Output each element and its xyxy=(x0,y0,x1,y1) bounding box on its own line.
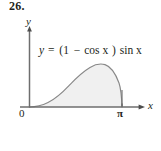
equation-lhs: y xyxy=(39,44,44,56)
shaded-region xyxy=(30,64,123,107)
x-axis-label: x xyxy=(148,100,153,111)
equation-cos-term: cos x xyxy=(84,44,108,56)
origin-label: 0 xyxy=(19,108,25,119)
equation-equals: = xyxy=(47,44,56,56)
x-tick-label-pi: π xyxy=(117,108,123,119)
figure-container: 26. y = (1 − cos x ) sin x y x 0 π xyxy=(0,0,161,151)
equation-close-paren: ) xyxy=(111,44,117,56)
y-axis-label: y xyxy=(26,16,31,27)
plot-area xyxy=(0,0,161,151)
equation-open-paren: (1 xyxy=(58,44,70,56)
x-axis-arrow-icon xyxy=(139,104,145,109)
equation-annotation: y = (1 − cos x ) sin x xyxy=(39,44,142,57)
equation-minus: − xyxy=(73,44,82,56)
equation-sin-term: sin x xyxy=(120,44,142,56)
